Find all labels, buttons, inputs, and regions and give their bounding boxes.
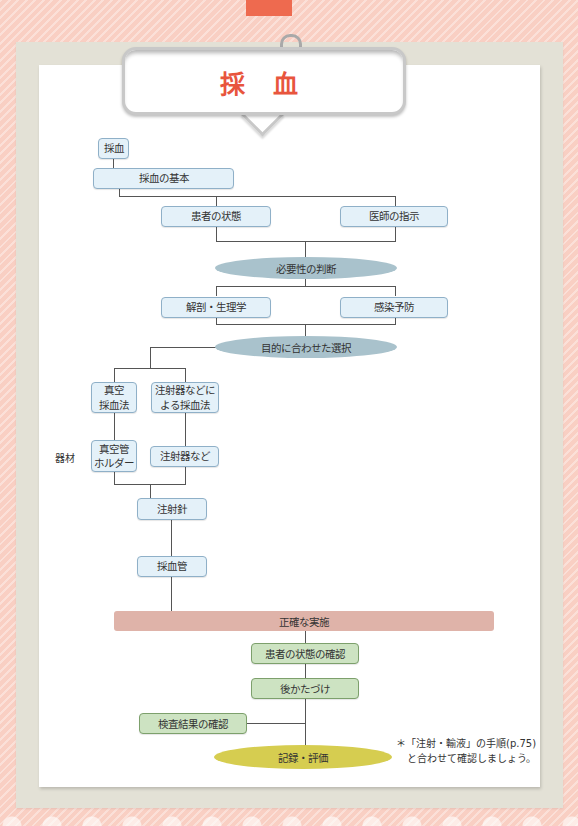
connector [185,368,186,382]
connector [119,188,120,196]
connector [171,520,172,556]
node-anatomy: 解剖・生理学 [161,297,271,318]
reference-note: ＊「注射・輸液」の手順(p.75) と合わせて確認しましょう。 [396,737,536,766]
connector [305,241,306,258]
connector [185,467,186,485]
node-syringe-etc: 注射器など [150,446,219,467]
node-vacuum-method: 真空採血法 [91,382,137,413]
connector [150,484,151,498]
hanger-hook-icon [280,34,302,47]
node-doctor-order: 医師の指示 [340,206,448,227]
connector [395,196,396,206]
connector [216,241,396,242]
node-basics: 採血の基本 [93,168,234,189]
connector [305,664,306,678]
node-blood-tube: 採血管 [137,556,207,577]
node-patient-state: 患者の状態 [161,206,271,227]
node-cleanup: 後かたづけ [251,678,359,699]
connector [114,368,186,369]
connector [216,196,217,206]
connector [246,723,305,724]
lace-border-decoration [0,810,578,826]
node-accurate-execution: 正確な実施 [114,611,494,631]
connector [114,412,115,440]
connector [216,286,217,296]
top-tab-decoration [246,0,292,16]
node-infection-prevention: 感染予防 [340,297,448,318]
connector [171,577,172,611]
connector [395,286,396,296]
connector [150,347,220,348]
connector [185,412,186,446]
connector [114,368,115,382]
connector [119,196,396,197]
connector [150,347,151,369]
node-vacuum-holder: 真空管ホルダー [91,440,137,472]
connector [305,631,306,643]
node-blood-collection: 採血 [98,138,129,159]
node-syringe-method: 注射器などによる採血法 [151,382,219,413]
node-record-evaluate: 記録・評価 [214,745,392,769]
connector [305,699,306,746]
page-title: 採 血 [122,64,406,100]
connector [216,286,396,287]
node-needle: 注射針 [137,498,207,520]
equipment-label: 器材 [55,450,75,465]
node-necessity: 必要性の判断 [215,257,397,279]
node-check-results: 検査結果の確認 [139,713,247,734]
connector [216,324,396,325]
node-check-patient: 患者の状態の確認 [251,643,359,664]
node-purpose-selection: 目的に合わせた選択 [215,336,397,358]
